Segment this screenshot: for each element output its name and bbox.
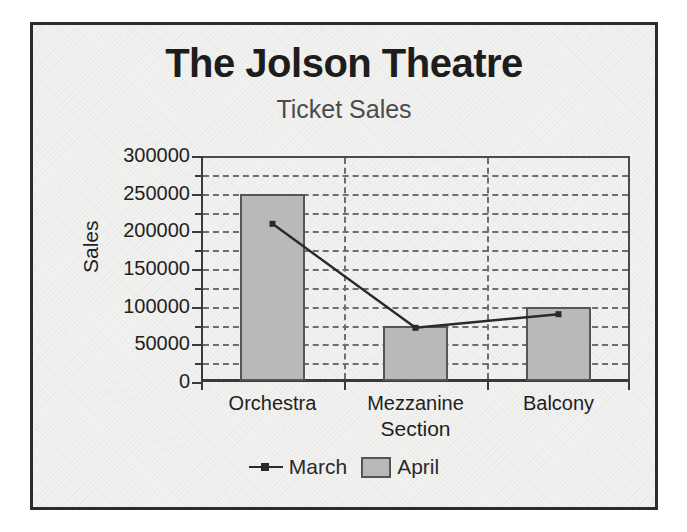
line-marker-icon (249, 460, 283, 474)
march-line-path (273, 224, 559, 328)
y-tick-major (192, 344, 203, 346)
bar-orchestra[interactable] (240, 194, 306, 381)
y-tick-label: 300000 (123, 144, 190, 167)
y-tick-minor (195, 175, 203, 177)
x-category-label: Orchestra (229, 392, 317, 415)
bar-balcony[interactable] (526, 307, 592, 381)
y-tick-minor (195, 213, 203, 215)
legend-entry-march[interactable]: March (249, 455, 347, 479)
chart-legend: March April (33, 455, 655, 479)
y-tick-minor (195, 250, 203, 252)
y-tick-minor (195, 326, 203, 328)
plot-border-right (628, 156, 630, 382)
chart-frame: The Jolson Theatre Ticket Sales Sales Se… (30, 22, 658, 510)
plot-border-top (201, 156, 630, 158)
plot-area: 300000250000200000150000100000500000 Orc… (201, 156, 630, 382)
x-category-label: Balcony (523, 392, 594, 415)
legend-entry-april[interactable]: April (361, 455, 439, 479)
gridline-vertical (344, 158, 346, 379)
chart-title: The Jolson Theatre (33, 41, 655, 86)
x-category-label: Mezzanine (367, 392, 464, 415)
x-tick (487, 379, 489, 390)
color-swatch-icon (361, 457, 391, 478)
y-tick-label: 150000 (123, 257, 190, 280)
y-tick-major (192, 269, 203, 271)
y-tick-label: 0 (179, 370, 190, 393)
gridline-vertical (487, 158, 489, 379)
march-line-markers (270, 221, 562, 331)
y-tick-minor (195, 288, 203, 290)
y-tick-minor (195, 363, 203, 365)
x-axis-title: Section (201, 417, 630, 441)
y-tick-label: 200000 (123, 219, 190, 242)
x-tick (628, 379, 630, 390)
x-tick (344, 379, 346, 390)
y-tick-major (192, 156, 203, 158)
y-tick-major (192, 194, 203, 196)
gridline-horizontal (203, 175, 628, 177)
y-tick-label: 100000 (123, 295, 190, 318)
y-axis-title: Sales (79, 220, 103, 273)
x-tick (201, 379, 203, 390)
chart-subtitle: Ticket Sales (33, 95, 655, 124)
legend-label-march: March (289, 455, 347, 479)
bar-mezzanine[interactable] (383, 326, 449, 382)
y-tick-major (192, 307, 203, 309)
y-tick-major (192, 231, 203, 233)
legend-label-april: April (397, 455, 439, 479)
y-tick-label: 50000 (134, 332, 190, 355)
y-tick-label: 250000 (123, 182, 190, 205)
